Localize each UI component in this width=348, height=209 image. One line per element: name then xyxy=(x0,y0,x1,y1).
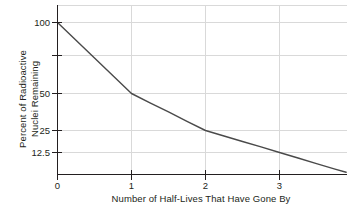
x-tick-label-2: 2 xyxy=(196,180,216,191)
x-axis-title: Number of Half-Lives That Have Gone By xyxy=(57,193,345,204)
y-axis-title: Percent of Radioactive Nuclei Remaining xyxy=(17,19,41,179)
horizontal-gridlines xyxy=(57,6,347,153)
x-tick-label-3: 3 xyxy=(270,180,290,191)
axes xyxy=(57,5,347,175)
x-tick-label-0: 0 xyxy=(48,180,68,191)
vertical-gridlines xyxy=(132,5,280,174)
plot-canvas xyxy=(0,0,348,209)
decay-curve xyxy=(58,23,347,173)
y-axis-title-line-2: Nuclei Remaining xyxy=(29,19,41,179)
x-tick-label-1: 1 xyxy=(122,180,142,191)
y-axis-title-line-1: Percent of Radioactive xyxy=(17,19,29,179)
half-life-decay-chart: 100 50 25 12.5 0 1 2 3 Number of Half-Li… xyxy=(0,0,348,209)
